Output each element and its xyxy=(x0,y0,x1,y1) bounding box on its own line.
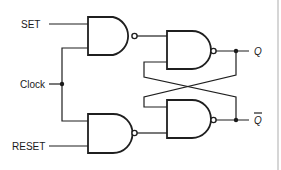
reset-label: RESET xyxy=(12,141,45,152)
nand-gate-q xyxy=(167,31,216,69)
nand-gate-set xyxy=(88,17,137,55)
nand-gate-qbar xyxy=(167,100,216,138)
nand-gate-reset xyxy=(88,114,137,153)
inverter-bubble xyxy=(211,117,216,122)
flip-flop-diagram: SET Clock RESET Q Q xyxy=(0,0,281,170)
clock-bus-wire xyxy=(62,48,88,121)
inverter-bubble xyxy=(211,48,216,53)
clock-junction-node xyxy=(60,82,64,86)
inverter-bubble xyxy=(132,130,137,135)
set-label: SET xyxy=(21,19,40,30)
q-output-label: Q xyxy=(254,46,262,57)
clock-label: Clock xyxy=(20,79,46,90)
inverter-bubble xyxy=(132,33,137,38)
qbar-output-label: Q xyxy=(254,115,262,126)
